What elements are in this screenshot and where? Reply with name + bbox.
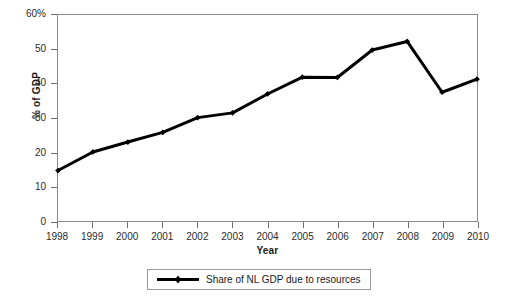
x-axis-tick-mark <box>408 222 409 228</box>
x-axis-tick-mark <box>338 222 339 228</box>
x-axis-tick-mark <box>478 222 479 228</box>
x-axis-tick-label: 2008 <box>388 230 428 243</box>
y-axis-tick-label: 30 <box>35 111 46 124</box>
chart-figure: % of GDP 0102030405060% 1998199920002001… <box>0 0 505 297</box>
y-axis-tick-label: 0 <box>40 215 46 228</box>
x-axis-tick-label: 2000 <box>107 230 147 243</box>
x-axis-tick-mark <box>127 222 128 228</box>
plot-area <box>57 14 478 222</box>
series-line-chart <box>58 15 477 221</box>
x-axis-tick-mark <box>92 222 93 228</box>
x-axis-tick-mark <box>162 222 163 228</box>
legend-line-marker-icon <box>157 274 199 285</box>
x-axis-tick-mark <box>303 222 304 228</box>
y-axis-tick-label: 50 <box>35 42 46 55</box>
x-axis-tick-label: 2005 <box>283 230 323 243</box>
x-axis-tick-label: 2004 <box>248 230 288 243</box>
x-axis-tick-label: 2010 <box>458 230 498 243</box>
x-axis-tick-mark <box>373 222 374 228</box>
series-markers <box>55 39 480 174</box>
y-axis-tick-label: 20 <box>35 146 46 159</box>
x-axis-tick-label: 1998 <box>37 230 77 243</box>
x-axis-tick-label: 2009 <box>423 230 463 243</box>
y-axis-tick-label: 60% <box>26 7 46 20</box>
x-axis-tick-mark <box>268 222 269 228</box>
chart-legend: Share of NL GDP due to resources <box>147 269 371 290</box>
x-axis-tick-label: 2003 <box>212 230 252 243</box>
x-axis-tick-label: 2001 <box>142 230 182 243</box>
x-axis-tick-mark <box>57 222 58 228</box>
y-axis-tick-label: 40 <box>35 76 46 89</box>
x-axis-tick-label: 2002 <box>177 230 217 243</box>
series-line-share-of-nl-gdp <box>58 41 477 170</box>
legend-entry-label: Share of NL GDP due to resources <box>206 273 361 286</box>
x-axis-tick-mark <box>197 222 198 228</box>
x-axis-tick-label: 2006 <box>318 230 358 243</box>
x-axis-tick-label: 1999 <box>72 230 112 243</box>
y-axis-tick-label: 10 <box>35 180 46 193</box>
x-axis-tick-label: 2007 <box>353 230 393 243</box>
x-axis-title: Year <box>57 245 478 256</box>
x-axis-tick-mark <box>232 222 233 228</box>
x-axis-tick-mark <box>443 222 444 228</box>
